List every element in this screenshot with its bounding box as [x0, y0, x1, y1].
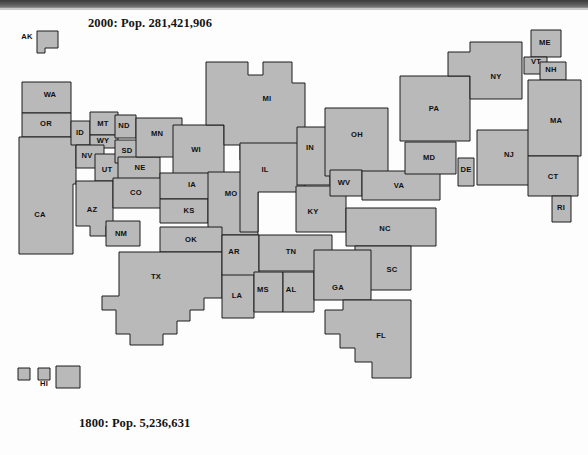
state-label-wa: WA — [44, 90, 57, 99]
state-shape-nc[interactable] — [346, 208, 436, 246]
state-label-az: AZ — [87, 205, 98, 214]
state-label-nc: NC — [379, 224, 391, 233]
state-label-wi: WI — [191, 145, 201, 154]
state-label-ok: OK — [185, 235, 197, 244]
state-label-nh: NH — [545, 65, 556, 74]
state-label-il: IL — [261, 165, 268, 174]
state-label-me: ME — [539, 38, 551, 47]
state-label-sc: SC — [387, 265, 398, 274]
state-label-ak: AK — [21, 32, 33, 41]
state-label-ri: RI — [557, 203, 565, 212]
state-label-mn: MN — [151, 129, 163, 138]
state-label-ia: IA — [188, 180, 196, 189]
state-shape-hi[interactable] — [18, 368, 30, 380]
state-shape-ga[interactable] — [314, 250, 371, 300]
state-label-nd: ND — [118, 121, 130, 130]
state-label-ne: NE — [135, 163, 146, 172]
state-label-ar: AR — [228, 247, 240, 256]
state-label-ma: MA — [550, 116, 563, 125]
state-label-nm: NM — [115, 229, 127, 238]
state-label-co: CO — [130, 188, 142, 197]
state-shape-tx[interactable] — [102, 252, 222, 345]
state-label-sd: SD — [122, 146, 133, 155]
state-label-ut: UT — [102, 165, 113, 174]
state-label-tn: TN — [286, 247, 297, 256]
state-label-pa: PA — [429, 104, 440, 113]
state-label-md: MD — [423, 153, 436, 162]
pacific-inset-c — [56, 366, 80, 388]
state-label-la: LA — [232, 291, 243, 300]
state-label-in: IN — [306, 143, 314, 152]
state-label-id: ID — [76, 128, 84, 137]
state-label-ms: MS — [257, 285, 269, 294]
cartogram-page: 2000: Pop. 281,421,906 1800: Pop. 5,236,… — [0, 0, 588, 455]
state-label-ks: KS — [184, 206, 195, 215]
state-shape-ca[interactable] — [19, 137, 76, 254]
states-layer — [18, 30, 581, 380]
state-label-mi: MI — [263, 94, 272, 103]
state-label-tx: TX — [151, 272, 161, 281]
state-label-fl: FL — [376, 331, 386, 340]
state-label-wv: WV — [338, 178, 351, 187]
state-label-mo: MO — [225, 189, 238, 198]
state-label-ct: CT — [548, 172, 559, 181]
state-label-ga: GA — [332, 283, 344, 292]
state-label-wy: WY — [97, 136, 110, 145]
state-label-va: VA — [394, 181, 405, 190]
state-label-ny: NY — [491, 72, 502, 81]
state-label-hi: HI — [40, 379, 48, 388]
state-shape-oh[interactable] — [325, 108, 388, 176]
state-label-nv: NV — [82, 151, 94, 160]
state-label-al: AL — [286, 285, 297, 294]
state-shape-ak[interactable] — [37, 31, 58, 53]
state-label-oh: OH — [351, 130, 363, 139]
state-label-nj: NJ — [504, 150, 514, 159]
state-label-ky: KY — [308, 207, 319, 216]
state-label-vt: VT — [531, 57, 541, 66]
state-label-ca: CA — [34, 210, 46, 219]
state-shape-il[interactable] — [240, 143, 305, 232]
us-population-cartogram: AKWAORCAIDMTWYNVUTAZNMNDSDNECOMNWIIAKSMO… — [0, 0, 588, 455]
state-label-de: DE — [461, 165, 472, 174]
state-label-mt: MT — [97, 119, 109, 128]
state-shape-fl[interactable] — [325, 300, 411, 378]
state-label-or: OR — [40, 119, 52, 128]
